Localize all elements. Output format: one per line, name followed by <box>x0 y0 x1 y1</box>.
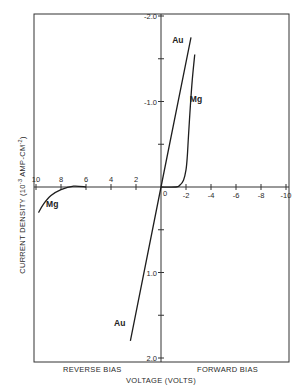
y-axis-title: CURRENT DENSITY (10-3 AMP-CM-2) <box>17 136 28 274</box>
y-tick-label: 1.0 <box>147 269 157 278</box>
x-tick-label: 8 <box>59 175 63 184</box>
series-label-au: Au <box>172 35 183 45</box>
y-tick-label: -2.0 <box>144 12 157 21</box>
y-title-exp1: -3 <box>17 179 23 185</box>
x-tick-label: 0 <box>163 189 167 198</box>
x-tick-label: -10 <box>281 191 292 200</box>
y-title-exp2: -2 <box>17 139 23 145</box>
x-tick-label: -8 <box>258 191 265 200</box>
series-mg-forward <box>161 54 195 187</box>
data-series <box>39 37 195 341</box>
x-tick-label: -2 <box>183 191 190 200</box>
y-tick-label: 2.0 <box>147 354 157 363</box>
x-tick-label: 6 <box>84 175 88 184</box>
x-tick-label: 10 <box>32 175 40 184</box>
y-title-unit: AMP-CM <box>18 145 27 179</box>
y-title-text: CURRENT DENSITY (10 <box>18 184 27 274</box>
x-tick-label: 2 <box>134 175 138 184</box>
reverse-bias-label: REVERSE BIAS <box>63 365 122 374</box>
iv-characteristic-chart: 1086420-2-4-6-8-10 -2.0-1.01.02.0 AuAuMg… <box>0 0 307 391</box>
y-tick-label: -1.0 <box>144 98 157 107</box>
series-labels: AuAuMgMg <box>46 35 202 327</box>
series-label-mg: Mg <box>190 94 202 104</box>
y-title-close: ) <box>18 136 27 139</box>
x-tick-label: -4 <box>208 191 215 200</box>
series-label-au: Au <box>114 318 125 328</box>
x-axis-title: VOLTAGE (VOLTS) <box>126 376 196 385</box>
series-label-mg: Mg <box>46 199 58 209</box>
x-tick-label: -6 <box>233 191 240 200</box>
x-tick-label: 4 <box>109 175 113 184</box>
forward-bias-label: FORWARD BIAS <box>197 365 258 374</box>
